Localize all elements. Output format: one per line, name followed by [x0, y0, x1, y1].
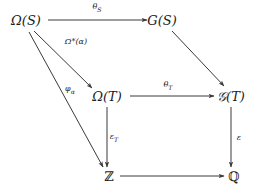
node-omega-t: Ω(T) [92, 90, 122, 103]
label-theta-t-sub: T [168, 84, 172, 91]
node-omega-s: Ω(S) [11, 14, 41, 27]
label-omega-star-alpha-text: Ω*(α) [65, 37, 87, 46]
node-g-s: G(S) [147, 14, 176, 27]
node-script-g-t: 𝒢(T) [217, 90, 245, 103]
node-rationals: ℚ [228, 170, 239, 183]
label-phi-alpha-sub: α [71, 88, 75, 95]
label-theta-s: θS [92, 3, 101, 13]
commutative-diagram: Ω(S) G(S) Ω(T) 𝒢(T) ℤ ℚ θS Ω*(α) φα θT ε… [0, 0, 257, 191]
label-omega-star-alpha: Ω*(α) [65, 38, 87, 46]
label-epsilon-text: ε [237, 133, 241, 142]
label-theta-s-sub: S [97, 6, 101, 13]
node-integers: ℤ [104, 170, 114, 183]
label-phi-alpha: φα [65, 85, 75, 95]
arrow-g-s-to-script-g-t [172, 31, 224, 86]
label-epsilon-t-sub: T [114, 136, 118, 143]
label-theta-t: θT [164, 81, 173, 91]
label-epsilon: ε [237, 134, 241, 142]
label-epsilon-t: εT [110, 133, 118, 143]
